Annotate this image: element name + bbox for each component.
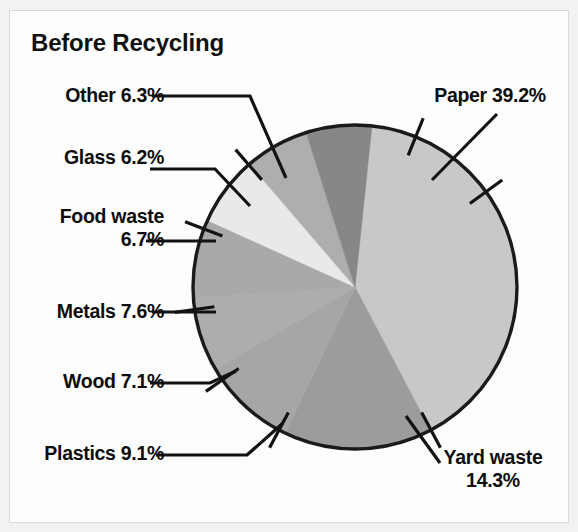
label-glass: Glass 6.2% <box>14 146 164 169</box>
label-wood: Wood 7.1% <box>14 370 164 393</box>
leader-line-plastics <box>156 423 283 455</box>
label-yard-waste-line1: Yard waste <box>418 446 568 469</box>
label-other: Other 6.3% <box>14 84 164 107</box>
label-food-waste-line2: 6.7% <box>6 228 164 251</box>
figure-container: Before Recycling Other 6.3% Glass 6.2% F… <box>0 0 578 532</box>
label-yard-waste-line2: 14.3% <box>418 469 568 492</box>
label-plastics: Plastics 9.1% <box>6 442 164 465</box>
label-metals: Metals 7.6% <box>14 300 164 323</box>
label-food-waste-line1: Food waste <box>6 205 164 228</box>
label-paper: Paper 39.2% <box>415 84 565 107</box>
